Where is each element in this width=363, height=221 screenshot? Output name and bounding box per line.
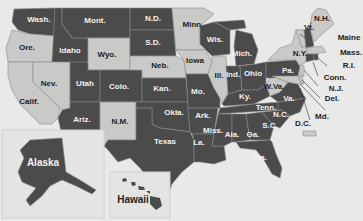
label-mi: Mich. [232, 50, 252, 58]
label-ma: Mass. [340, 49, 362, 57]
label-fl: Fla. [253, 154, 267, 162]
label-vt: Vt. [304, 24, 314, 32]
label-nc: N.C. [273, 111, 289, 119]
label-va: Va. [283, 95, 295, 103]
label-pa: Pa. [282, 67, 294, 75]
label-il: Ill. [215, 72, 224, 80]
label-wy: Wyo. [98, 51, 117, 59]
label-mt: Mont. [84, 17, 105, 25]
label-dc: D.C. [295, 120, 311, 128]
label-ri: R.I. [343, 62, 355, 70]
label-hi: Hawaii [117, 195, 149, 205]
label-id: Idaho [59, 47, 80, 55]
label-co: Colo. [109, 83, 129, 91]
label-md: Md. [315, 113, 329, 121]
label-in: Ind. [226, 71, 240, 79]
label-ak: Alaska [27, 158, 59, 168]
label-ut: Utah [76, 80, 94, 88]
label-sc: S.C. [262, 122, 278, 130]
label-ky: Ky. [239, 93, 251, 101]
label-ks: Kan. [153, 85, 170, 93]
label-ny: N.Y. [293, 50, 308, 58]
label-mn: Minn. [183, 21, 204, 29]
label-al: Ala. [225, 131, 240, 139]
label-wv: W.Va. [264, 83, 285, 91]
label-ms: Miss. [203, 127, 223, 135]
label-oh: Ohio [244, 70, 262, 78]
state-ri[interactable] [314, 54, 318, 60]
label-nh: N.H. [314, 15, 330, 23]
state-dc-swatch[interactable] [303, 131, 316, 136]
label-nm: N.M. [112, 118, 129, 126]
label-tx: Texas [154, 138, 176, 146]
label-nd: N.D. [145, 15, 161, 23]
label-ct: Conn. [324, 74, 347, 82]
label-de: Del. [325, 95, 340, 103]
label-ga: Ga. [247, 131, 260, 139]
label-ne: Neb. [151, 62, 168, 70]
label-ok: Okla. [164, 109, 184, 117]
label-me: Maine [338, 34, 361, 42]
label-mo: Mo. [191, 88, 205, 96]
label-ia: Iowa [186, 57, 204, 65]
label-nj: N.J. [329, 85, 344, 93]
label-nv: Nev. [41, 80, 57, 88]
label-ca: Calif. [19, 98, 39, 106]
label-la: La. [193, 139, 205, 147]
label-wa: Wash. [27, 16, 50, 24]
label-sd: S.D. [145, 39, 161, 47]
label-az: Ariz. [73, 116, 90, 124]
label-ar: Ark. [195, 112, 211, 120]
label-or: Ore. [19, 44, 35, 52]
label-wi: Wis. [207, 36, 223, 44]
